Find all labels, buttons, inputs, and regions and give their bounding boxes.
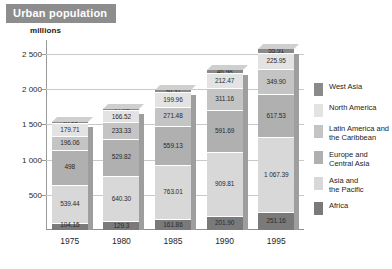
legend-item-label: Africa — [329, 201, 348, 210]
bar-segment[interactable]: 196.06 — [52, 136, 88, 150]
bar-side-face — [243, 75, 248, 230]
bar-segment[interactable]: 591.69 — [207, 110, 243, 152]
bar-stack[interactable]: 46.98212.47311.16591.69909.81201.90 — [207, 70, 243, 230]
bar-segment[interactable]: 311.16 — [207, 88, 243, 110]
bar-side-face — [191, 95, 196, 230]
bar-segment[interactable]: 201.90 — [207, 216, 243, 230]
bar-segment[interactable]: 166.52 — [103, 110, 139, 122]
x-axis-label: 1980 — [100, 236, 142, 246]
bar-side-face — [139, 114, 144, 230]
bar-segment-value: 311.16 — [215, 96, 234, 103]
bar-segment[interactable]: 539.44 — [52, 185, 88, 223]
bar-segment-value: 104.15 — [60, 222, 79, 229]
bar-segment[interactable]: 104.15 — [52, 223, 88, 230]
legend-item-label: Asia and the Pacific — [329, 176, 364, 195]
legend-item-label: North America — [329, 103, 377, 112]
y-axis-tick-label: 2 500 — [22, 50, 42, 59]
bar-segment[interactable]: 909.81 — [207, 152, 243, 216]
y-axis-tick-label: 500 — [29, 190, 42, 199]
bar-segment[interactable]: 763.01 — [155, 165, 191, 219]
y-axis-tick-mark — [42, 54, 46, 55]
bar-segment[interactable]: 271.48 — [155, 107, 191, 126]
bar-side-face — [88, 127, 93, 230]
bar-segment-value: 166.52 — [112, 114, 131, 121]
bar-segment-value: 196.06 — [60, 140, 79, 147]
bar-side-face — [294, 54, 299, 230]
bar-top-face — [207, 65, 248, 70]
bar-segment-value: 271.48 — [163, 113, 182, 120]
legend-item[interactable]: Europe and Central Asia — [314, 150, 392, 169]
bar-segment-value: 617.53 — [267, 113, 286, 120]
y-axis-tick-mark — [42, 195, 46, 196]
legend-item-label: West Asia — [329, 82, 362, 91]
bar-segment[interactable]: 617.53 — [258, 94, 294, 137]
bar-segment-value: 591.69 — [215, 128, 234, 135]
bar-segment-value: 233.33 — [112, 128, 131, 135]
y-axis-line — [46, 40, 47, 230]
bar-segment[interactable]: 498 — [52, 150, 88, 185]
x-axis-label: 1990 — [204, 236, 246, 246]
bar-stack[interactable]: 55.91225.95349.90617.531 067.39251.16 — [258, 49, 294, 230]
bar-segment-value: 640.30 — [112, 196, 131, 203]
bar-segment[interactable]: 251.16 — [258, 212, 294, 230]
plot-area: 5001 0001 5002 0002 50020.88179.71196.06… — [46, 40, 304, 230]
chart-title: Urban population — [6, 4, 116, 23]
bar-segment[interactable]: 559.13 — [155, 126, 191, 165]
bar-segment[interactable]: 199.96 — [155, 92, 191, 106]
bar-segment-value: 559.13 — [163, 143, 182, 150]
legend-item[interactable]: West Asia — [314, 82, 392, 96]
bar-segment-value: 1 067.39 — [264, 172, 289, 179]
urban-population-chart: Urban population millions 5001 0001 5002… — [0, 0, 392, 269]
bar-segment-value: 225.95 — [267, 58, 286, 65]
legend-swatch — [314, 125, 323, 138]
y-axis-tick-mark — [42, 124, 46, 125]
bar-stack[interactable]: 27.49166.52233.33529.82640.30129.3 — [103, 109, 139, 230]
bar-segment-value: 349.90 — [267, 79, 286, 86]
y-axis-tick-label: 2 000 — [22, 85, 42, 94]
legend-item[interactable]: North America — [314, 103, 392, 117]
y-axis-tick-mark — [42, 160, 46, 161]
legend-swatch — [314, 104, 323, 117]
bar-top-face — [258, 44, 299, 49]
legend-swatch — [314, 83, 323, 96]
bar-segment[interactable]: 529.82 — [103, 139, 139, 176]
legend-item-label: Europe and Central Asia — [329, 150, 369, 169]
bar-segment-value: 179.71 — [60, 127, 79, 134]
bar-segment-value: 529.82 — [112, 154, 131, 161]
bar-segment-value: 199.96 — [163, 97, 182, 104]
bar-stack[interactable]: 36.31199.96271.48559.13763.01161.86 — [155, 90, 191, 230]
bar-segment-value: 909.81 — [215, 181, 234, 188]
bar-stack[interactable]: 20.88179.71196.06498539.44104.15 — [52, 122, 88, 230]
legend-item-label: Latin America and the Caribbean — [329, 124, 389, 143]
bar-segment-value: 251.16 — [267, 218, 286, 225]
bar-segment[interactable]: 129.3 — [103, 221, 139, 230]
bar-segment-value: 539.44 — [60, 201, 79, 208]
x-axis-label: 1985 — [152, 236, 194, 246]
legend-swatch — [314, 151, 323, 164]
y-axis-tick-label: 1 500 — [22, 120, 42, 129]
bar-segment[interactable]: 212.47 — [207, 73, 243, 88]
y-axis-tick-label: 1 000 — [22, 155, 42, 164]
legend-item[interactable]: Africa — [314, 201, 392, 215]
bar-segment-value: 498 — [65, 164, 76, 171]
bar-segment[interactable]: 225.95 — [258, 53, 294, 69]
bar-segment[interactable]: 179.71 — [52, 123, 88, 136]
legend-swatch — [314, 202, 323, 215]
legend-item[interactable]: Latin America and the Caribbean — [314, 124, 392, 143]
bar-segment[interactable]: 161.86 — [155, 219, 191, 230]
bar-segment-value: 212.47 — [215, 78, 234, 85]
x-axis-label: 1995 — [255, 236, 297, 246]
bar-segment[interactable]: 640.30 — [103, 176, 139, 221]
y-axis-unit-label: millions — [30, 26, 61, 35]
bar-segment[interactable]: 349.90 — [258, 69, 294, 94]
bar-segment[interactable]: 1 067.39 — [258, 137, 294, 212]
bar-segment-value: 763.01 — [163, 189, 182, 196]
bar-segment[interactable]: 233.33 — [103, 122, 139, 138]
bar-segment-value: 161.86 — [163, 222, 182, 229]
legend-swatch — [314, 177, 323, 190]
legend-item[interactable]: Asia and the Pacific — [314, 176, 392, 195]
bar-segment-value: 129.3 — [114, 223, 130, 230]
bar-top-face — [103, 104, 144, 109]
x-axis-label: 1975 — [49, 236, 91, 246]
bar-top-face — [155, 85, 196, 90]
